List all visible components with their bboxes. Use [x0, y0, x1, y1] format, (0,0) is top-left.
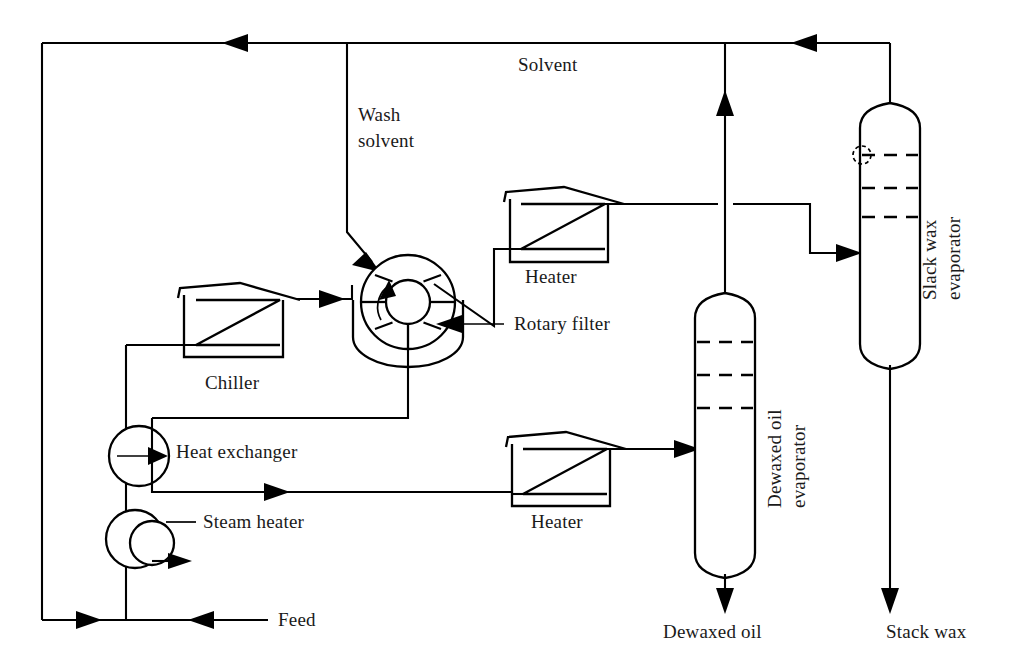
wash-solvent-label-line1: Wash [358, 104, 401, 125]
stack-wax-product-label: Stack wax [886, 621, 967, 642]
pfd-canvas: Chiller Heat exchanger Steam heater Feed [0, 0, 1018, 666]
feed-label: Feed [278, 609, 316, 630]
slack-wax-evaporator[interactable] [853, 103, 920, 369]
heat-exchanger-label: Heat exchanger [176, 441, 298, 462]
steam-heater-coil [130, 521, 174, 565]
heater-bottom-label: Heater [531, 511, 583, 532]
dewaxed-oil-evaporator-shell [695, 293, 755, 578]
dewaxed-oil-evaporator-label-line2: evaporator [788, 424, 809, 508]
process-flow-diagram: Chiller Heat exchanger Steam heater Feed [0, 0, 1018, 666]
dewaxed-oil-product-label: Dewaxed oil [663, 621, 762, 642]
heat-exchanger[interactable] [109, 426, 169, 486]
slack-wax-evaporator-label-line1: Slack wax [919, 219, 940, 300]
heater-top-label: Heater [525, 266, 577, 287]
wash-solvent-label-line2: solvent [358, 130, 415, 151]
slack-wax-evaporator-shell [860, 103, 920, 369]
slack-wax-evaporator-label-line2: evaporator [943, 216, 964, 300]
rotary-filter-hub [386, 280, 430, 324]
dewaxed-oil-evaporator-label-line1: Dewaxed oil [764, 409, 785, 508]
chiller-label: Chiller [205, 372, 260, 393]
dewaxed-oil-evaporator[interactable] [695, 293, 755, 578]
solvent-label: Solvent [518, 54, 578, 75]
rotary-filter-label: Rotary filter [514, 313, 610, 334]
steam-heater-label: Steam heater [203, 511, 305, 532]
